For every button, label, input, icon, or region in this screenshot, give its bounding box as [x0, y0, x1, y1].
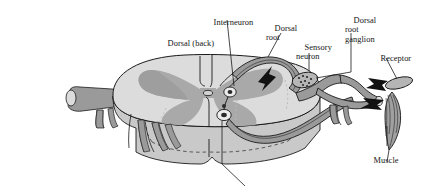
arrow-receptor: [366, 78, 388, 91]
receptor: [384, 74, 414, 91]
spinal-cord-reflex-arc-figure: Interneuron Dorsal (back) Dorsalroot Sen…: [0, 0, 422, 190]
label-dorsal-root: Dorsalroot: [266, 15, 297, 52]
label-dorsal-back: Dorsal (back): [159, 30, 214, 58]
label-receptor: Receptor: [372, 45, 411, 73]
label-muscle: Muscle: [365, 147, 399, 175]
label-sensory-neuron: Sensoryneuron: [296, 34, 332, 71]
central-canal: [203, 90, 212, 95]
